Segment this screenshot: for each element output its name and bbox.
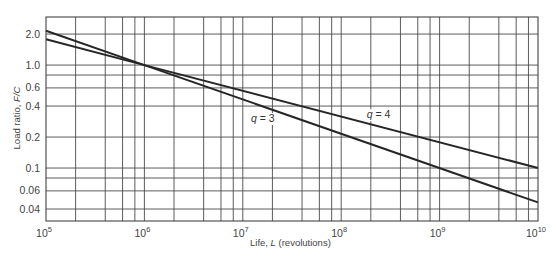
y-tick-label: 0.6 — [25, 81, 40, 93]
life-load-ratio-chart: q = 3q = 4 2.01.00.60.40.20.10.060.04 10… — [0, 0, 556, 262]
series-label-text: q = 4 — [367, 108, 391, 120]
x-tick-label: 105 — [36, 225, 52, 239]
x-tick-base: 10 — [526, 227, 538, 239]
series-label-text: q = 3 — [251, 112, 275, 124]
x-tick-label: 108 — [331, 225, 347, 239]
y-tick-label: 0.1 — [25, 162, 40, 174]
series-lines — [46, 31, 538, 203]
y-tick-label: 0.04 — [20, 203, 41, 215]
grid — [46, 17, 538, 221]
series-label-value: = 4 — [373, 108, 391, 120]
x-tick-exponent: 5 — [48, 225, 52, 234]
series-label-q4: q = 4 — [366, 108, 392, 121]
x-tick-base: 10 — [36, 227, 48, 239]
x-tick-label: 1010 — [526, 225, 546, 239]
series-line-q3 — [46, 31, 538, 203]
x-tick-exponent: 6 — [146, 225, 150, 234]
x-tick-base: 10 — [331, 227, 343, 239]
plot-frame — [46, 17, 538, 221]
y-tick-labels: 2.01.00.60.40.20.10.060.04 — [20, 28, 41, 215]
y-tick-label: 2.0 — [25, 28, 40, 40]
y-tick-label: 0.06 — [20, 184, 41, 196]
x-tick-exponent: 9 — [441, 225, 445, 234]
y-axis-label: Load ratio, F/C — [11, 86, 22, 149]
y-tick-label: 1.0 — [25, 59, 40, 71]
x-axis-label-prefix: Life, — [250, 237, 271, 248]
x-axis-label: Life, L (revolutions) — [250, 237, 331, 248]
series-label-q3: q = 3 — [250, 112, 276, 125]
x-tick-label: 109 — [430, 225, 446, 239]
x-tick-exponent: 8 — [343, 225, 347, 234]
y-tick-label: 0.2 — [25, 131, 40, 143]
series-label-value: = 3 — [257, 112, 275, 124]
x-tick-label: 106 — [134, 225, 150, 239]
x-axis-label-suffix: (revolutions) — [276, 237, 331, 248]
series-line-q4 — [46, 39, 538, 168]
x-tick-label: 107 — [233, 225, 249, 239]
y-axis-label-variable: F/C — [11, 86, 22, 101]
x-tick-base: 10 — [430, 227, 442, 239]
x-tick-exponent: 10 — [538, 225, 546, 234]
x-tick-base: 10 — [134, 227, 146, 239]
x-tick-base: 10 — [233, 227, 245, 239]
x-tick-exponent: 7 — [245, 225, 249, 234]
y-tick-label: 0.4 — [25, 100, 40, 112]
y-axis-label-prefix: Load ratio, — [11, 102, 22, 150]
